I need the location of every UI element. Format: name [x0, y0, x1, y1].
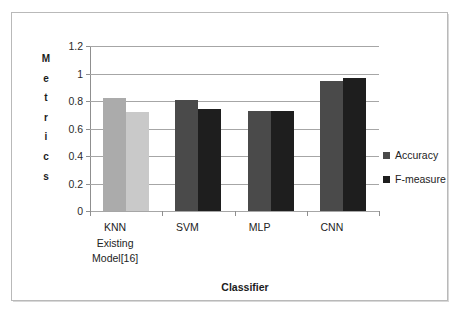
figure-frame: M e t r i c s 00.20.40.60.811.2 KNN Exis…	[11, 12, 448, 301]
legend-item: F-measure	[383, 173, 463, 185]
legend-label: F-measure	[395, 173, 446, 185]
x-category-label: CNN	[282, 220, 382, 236]
y-tick-mark	[86, 101, 90, 102]
y-axis-title-letter: t	[36, 88, 56, 108]
bar-accuracy	[320, 81, 343, 211]
x-tick-mark	[307, 211, 308, 216]
legend-swatch-icon	[383, 152, 390, 159]
y-tick-label: 1	[77, 68, 83, 80]
y-tick-label: 0	[77, 205, 83, 217]
bar-f-measure	[198, 109, 221, 211]
y-tick-mark	[86, 156, 90, 157]
bar-accuracy	[175, 100, 198, 211]
y-axis-title-letter: M	[36, 49, 56, 69]
y-tick-mark	[86, 74, 90, 75]
bar-f-measure	[343, 78, 366, 211]
bar-accuracy	[248, 111, 271, 211]
legend-swatch-icon	[383, 176, 390, 183]
y-tick-mark	[86, 46, 90, 47]
legend-label: Accuracy	[395, 149, 438, 161]
y-tick-label: 0.6	[68, 123, 83, 135]
y-tick-label: 0.8	[68, 95, 83, 107]
y-axis-title-letter: c	[36, 147, 56, 167]
y-tick-mark	[86, 184, 90, 185]
y-axis-title-letter: r	[36, 108, 56, 128]
y-tick-label: 1.2	[68, 40, 83, 52]
bar-accuracy	[103, 98, 126, 211]
y-axis-title-letter: e	[36, 69, 56, 89]
y-tick-label: 0.2	[68, 178, 83, 190]
gridline	[90, 46, 379, 47]
plot-area: 00.20.40.60.811.2	[90, 46, 379, 211]
gridline	[90, 74, 379, 75]
chart-legend: AccuracyF-measure	[383, 149, 463, 197]
x-tick-mark	[235, 211, 236, 216]
y-axis-title-letter: s	[36, 167, 56, 187]
x-axis-title: Classifier	[190, 281, 300, 293]
y-tick-mark	[86, 129, 90, 130]
legend-item: Accuracy	[383, 149, 463, 161]
x-tick-mark	[379, 211, 380, 216]
y-axis-title-letter: i	[36, 127, 56, 147]
x-tick-mark	[90, 211, 91, 216]
x-tick-mark	[162, 211, 163, 216]
y-tick-label: 0.4	[68, 150, 83, 162]
y-axis-title: M e t r i c s	[36, 49, 56, 186]
bar-f-measure	[126, 112, 149, 211]
bar-f-measure	[271, 111, 294, 211]
